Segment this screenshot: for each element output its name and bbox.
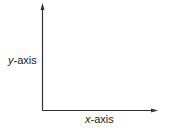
y-axis-suffix: -axis	[14, 54, 37, 66]
y-axis-label: y-axis	[8, 54, 37, 66]
x-axis-arrowhead-icon	[151, 109, 158, 113]
x-axis-label: x-axis	[85, 113, 114, 125]
x-axis-suffix: -axis	[91, 113, 114, 125]
y-axis-arrowhead-icon	[41, 3, 45, 10]
